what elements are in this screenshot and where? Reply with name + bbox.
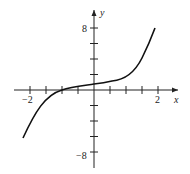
y-tick-label-8: 8 (82, 23, 87, 34)
y-tick-label-neg8: −8 (76, 150, 87, 161)
y-axis-arrow-icon (92, 10, 97, 16)
x-axis-arrow-icon (172, 88, 178, 93)
x-axis-label: x (173, 94, 179, 105)
x-tick-label-neg2: −2 (22, 94, 33, 105)
curve (23, 28, 155, 138)
y-axis-label: y (99, 7, 105, 18)
x-tick-label-2: 2 (155, 94, 160, 105)
function-graph: −2 2 x y 8 −8 (0, 0, 190, 174)
